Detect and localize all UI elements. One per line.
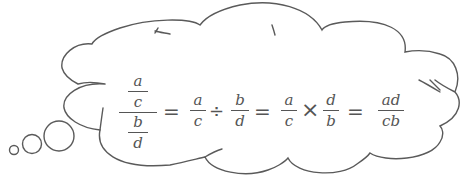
divide-sign: ÷ [209,101,224,121]
fraction-bar [378,110,404,111]
complex-top-fraction: a c [128,73,148,111]
multiply-sign: × [301,100,319,120]
complex-bottom-fraction: b d [128,114,148,152]
fraction-bar [128,91,148,92]
numerator: a [285,92,294,109]
fraction-b-over-d: b d [231,92,249,130]
cloud-cusp [272,25,275,35]
denominator: c [134,94,142,111]
numerator: a [194,92,203,109]
denominator: c [285,113,293,130]
denominator: c [194,113,202,130]
cloud-cusp [155,31,170,34]
equals-sign: = [163,101,180,121]
equals-sign: = [347,101,364,121]
bubble-medium [23,135,42,154]
numerator: b [235,92,245,109]
fraction-bar [231,110,249,111]
result-fraction: ad cb [378,92,404,130]
cloud-cusp [100,108,103,130]
bubble-large [44,121,74,151]
cloud-cusp [205,149,222,157]
denominator: cb [382,113,400,130]
fraction-a-over-c: a c [190,92,206,130]
fraction-a-over-c: a c [281,92,297,130]
denominator: b [326,113,336,130]
equals-sign: = [254,101,271,121]
bubble-small [10,146,19,155]
numerator: ad [382,92,401,109]
fraction-bar [323,110,339,111]
denominator: d [235,113,245,130]
denominator: d [133,135,143,152]
fraction-bar [190,110,206,111]
numerator: b [133,114,143,131]
thought-bubble-figure: a c b d = a c ÷ b d = a c [0,0,461,189]
fraction-bar [281,110,297,111]
fraction-bar [128,132,148,133]
numerator: d [326,92,336,109]
cloud-shape [62,3,459,174]
numerator: a [134,73,143,90]
fraction-d-over-b: d b [323,92,339,130]
